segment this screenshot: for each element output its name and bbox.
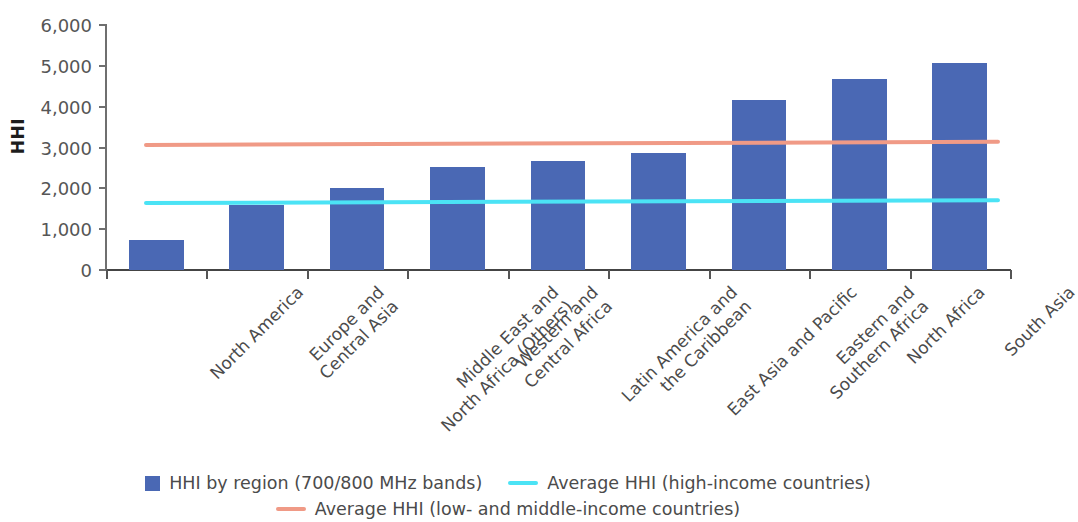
legend-item-low-middle-income[interactable]: Average HHI (low- and middle-income coun… [276,499,740,519]
x-tick-mark [407,270,409,279]
bar-5[interactable] [631,153,686,270]
category-label-1: Europe andCentral Asia [301,282,402,383]
legend-label-bars: HHI by region (700/800 MHz bands) [169,473,482,493]
category-label-line1: North America [206,282,307,383]
x-tick-mark [709,270,711,279]
x-tick-mark [307,270,309,279]
category-label-0: North America [206,282,307,383]
x-tick-mark [1010,270,1012,279]
chart-legend: HHI by region (700/800 MHz bands) Averag… [0,470,1016,522]
legend-row-1: HHI by region (700/800 MHz bands) Averag… [0,470,1016,496]
x-tick-mark [809,270,811,279]
legend-swatch-low-middle-income-icon [276,507,306,511]
y-axis-title: HHI [8,96,28,176]
y-tick-label: 5,000 [30,55,92,76]
legend-swatch-bar-icon [145,476,160,491]
y-tick-label: 1,000 [30,219,92,240]
legend-label-high-income: Average HHI (high-income countries) [547,473,871,493]
legend-row-2: Average HHI (low- and middle-income coun… [0,496,1016,522]
bar-1[interactable] [229,205,284,270]
category-label-line1: South Asia [1000,282,1078,360]
bar-7[interactable] [832,79,887,270]
x-tick-mark [508,270,510,279]
x-tick-mark [106,270,108,279]
category-label-8: South Asia [1000,282,1078,360]
legend-item-high-income[interactable]: Average HHI (high-income countries) [508,473,871,493]
legend-item-bars[interactable]: HHI by region (700/800 MHz bands) [145,473,482,493]
bar-4[interactable] [531,161,586,270]
legend-swatch-high-income-icon [508,481,538,485]
y-tick-label: 4,000 [30,96,92,117]
y-tick-label: 6,000 [30,15,92,36]
legend-label-low-middle-income: Average HHI (low- and middle-income coun… [315,499,740,519]
bar-3[interactable] [430,167,485,270]
y-tick-label: 2,000 [30,178,92,199]
bar-6[interactable] [732,100,787,270]
y-tick-label: 0 [30,260,92,281]
x-tick-mark [608,270,610,279]
y-tick-label: 3,000 [30,137,92,158]
x-tick-mark [206,270,208,279]
bar-0[interactable] [129,240,184,270]
bar-8[interactable] [932,63,987,270]
plot-area [106,25,1010,270]
x-tick-mark [910,270,912,279]
category-label-line1: Latin America and [617,282,741,406]
